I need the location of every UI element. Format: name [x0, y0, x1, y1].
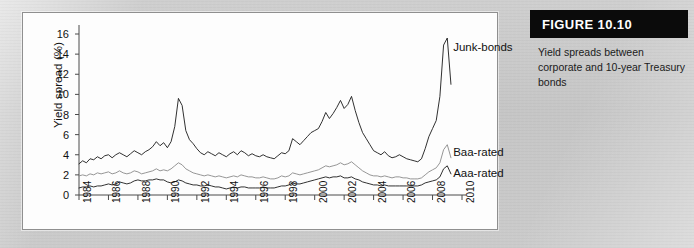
- y-tick-label: 8: [47, 110, 69, 121]
- y-tick-label: 4: [47, 150, 69, 161]
- y-tick-label: 0: [47, 190, 69, 201]
- series-label-junk-bonds: Junk-bonds: [453, 41, 512, 53]
- x-tick-label: 1986: [112, 181, 122, 203]
- y-tick-label: 12: [47, 69, 69, 80]
- series-line-junk-bonds: [79, 38, 451, 164]
- x-tick-label: 1988: [142, 181, 152, 203]
- x-tick-label: 2006: [407, 181, 417, 203]
- figure-root: Yield spread (%) 0246810121416 198419861…: [0, 0, 694, 248]
- series-line-baa-rated: [79, 145, 451, 179]
- x-tick-label: 1996: [260, 181, 270, 203]
- chart-panel: Yield spread (%) 0246810121416 198419861…: [22, 12, 498, 230]
- x-tick-label: 2010: [466, 181, 476, 203]
- y-tick-label: 6: [47, 130, 69, 141]
- y-tick-label: 2: [47, 170, 69, 181]
- y-tick-label: 14: [47, 49, 69, 60]
- x-tick-label: 1984: [83, 181, 93, 203]
- x-tick-label: 1998: [289, 181, 299, 203]
- x-tick-label: 1990: [171, 181, 181, 203]
- series-label-aaa-rated: Aaa-rated: [453, 167, 504, 179]
- x-tick-label: 1994: [230, 181, 240, 203]
- figure-number-label: FIGURE 10.10: [542, 17, 632, 32]
- x-tick-label: 2008: [437, 181, 447, 203]
- figure-caption: Yield spreads between corporate and 10-y…: [538, 45, 688, 91]
- series-label-baa-rated: Baa-rated: [453, 146, 504, 158]
- figure-header-bar: FIGURE 10.10: [530, 10, 688, 38]
- x-tick-label: 1992: [201, 181, 211, 203]
- x-tick-label: 2000: [319, 181, 329, 203]
- y-tick-label: 16: [47, 29, 69, 40]
- x-tick-label: 2002: [348, 181, 358, 203]
- y-tick-label: 10: [47, 89, 69, 100]
- x-tick-label: 2004: [378, 181, 388, 203]
